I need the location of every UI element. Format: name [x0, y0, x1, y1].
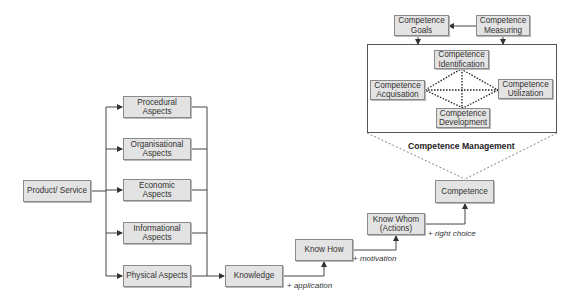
application-prefix: +: [287, 281, 294, 290]
procedural-aspects-box: Procedural Aspects: [123, 96, 191, 118]
competence-box: Competence: [435, 180, 494, 203]
application-text: application: [294, 281, 332, 290]
application-label: + application: [287, 281, 332, 290]
physical-aspects-box: Physical Aspects: [123, 265, 191, 287]
competence-identification-box: Competence Identification: [434, 50, 489, 69]
competence-acquisition-box: Competence Acquisation: [370, 80, 425, 100]
competence-cycle-dotted-lines: [0, 0, 581, 302]
right-choice-text: right choice: [435, 229, 476, 238]
know-how-box: Know How: [295, 239, 353, 261]
competence-utilization-box: Competence Utilization: [498, 79, 553, 99]
knowledge-box: Knowledge: [225, 265, 283, 287]
informational-aspects-box: Informational Aspects: [123, 222, 191, 244]
motivation-label: + motivation: [353, 254, 396, 263]
competence-development-box: Competence Development: [436, 108, 490, 128]
right-choice-label: + right choice: [428, 229, 476, 238]
competence-measuring-box: Competence Measuring: [476, 15, 530, 36]
economic-aspects-box: Economic Aspects: [123, 179, 191, 201]
know-whom-box: Know Whom (Actions): [367, 213, 425, 235]
competence-goals-box: Competence Goals: [394, 15, 449, 36]
motivation-text: motivation: [360, 254, 396, 263]
organisational-aspects-box: Organisational Aspects: [123, 138, 191, 160]
product-service-box: Product/ Service: [23, 180, 91, 202]
right-choice-prefix: +: [428, 229, 435, 238]
motivation-prefix: +: [353, 254, 360, 263]
competence-management-title: Competence Management: [408, 141, 515, 151]
